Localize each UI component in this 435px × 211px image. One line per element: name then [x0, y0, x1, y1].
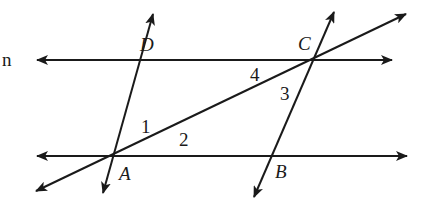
point-label-c: C: [298, 33, 311, 54]
line-AC: [36, 14, 406, 191]
angle-label-1: 1: [141, 116, 151, 137]
geometry-diagram: n D C A B 1 2 3 4: [0, 0, 435, 211]
point-label-d: D: [139, 34, 154, 55]
line-BC: [254, 12, 334, 197]
lines-layer: [36, 12, 407, 197]
angle-label-2: 2: [179, 129, 189, 150]
point-label-a: A: [117, 163, 131, 184]
clipped-left-label: n: [2, 49, 12, 70]
angle-label-4: 4: [250, 64, 260, 85]
angle-label-3: 3: [280, 83, 290, 104]
point-label-b: B: [275, 161, 287, 182]
